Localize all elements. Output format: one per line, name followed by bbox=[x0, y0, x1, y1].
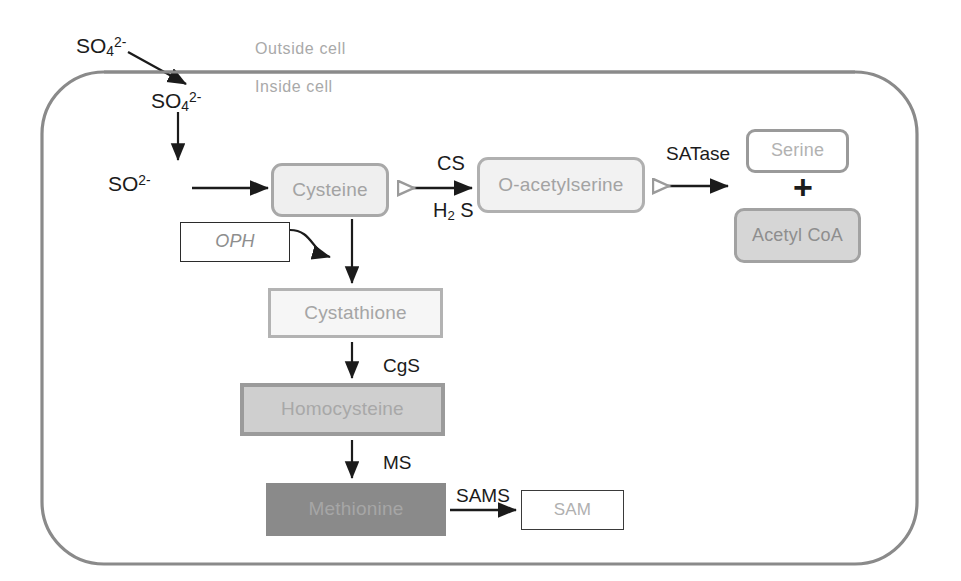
h2s-subscript: 2 bbox=[447, 208, 454, 223]
metabolite-sulfate-inside: SO42- bbox=[151, 89, 201, 114]
node-oph-enzyme[interactable]: OPH bbox=[180, 222, 290, 262]
node-sam[interactable]: SAM bbox=[521, 490, 624, 530]
node-o-acetylserine[interactable]: O-acetylserine bbox=[477, 157, 645, 213]
label-inside-cell: Inside cell bbox=[255, 78, 333, 96]
enzyme-label-sams: SAMS bbox=[456, 485, 510, 507]
sulfate-outside-subscript: 4 bbox=[106, 43, 114, 59]
node-serine[interactable]: Serine bbox=[746, 129, 849, 173]
h2s-prefix: H bbox=[433, 199, 447, 221]
sulfate-outside-formula: SO bbox=[76, 34, 106, 57]
enzyme-label-cgs: CgS bbox=[383, 355, 420, 377]
node-homocysteine[interactable]: Homocysteine bbox=[240, 383, 445, 436]
pathway-diagram-canvas: Outside cell Inside cell SO42- SO42- SO2… bbox=[0, 0, 961, 581]
metabolite-sulfate-outside: SO42- bbox=[76, 34, 126, 59]
sulfate-inside-subscript: 4 bbox=[181, 98, 189, 114]
label-outside-cell: Outside cell bbox=[255, 40, 346, 58]
sulfate-outside-charge: 2- bbox=[114, 34, 126, 50]
plus-operator-icon: + bbox=[788, 173, 818, 203]
sulfate-inside-charge: 2- bbox=[189, 89, 201, 105]
node-cystathione[interactable]: Cystathione bbox=[268, 288, 443, 338]
h2s-suffix: S bbox=[455, 199, 474, 221]
enzyme-label-ms: MS bbox=[383, 452, 412, 474]
enzyme-label-cs: CS bbox=[437, 152, 465, 175]
enzyme-label-satase: SATase bbox=[666, 143, 730, 165]
metabolite-sulfite: SO2- bbox=[108, 172, 151, 196]
sulfate-inside-formula: SO bbox=[151, 89, 181, 112]
sulfite-formula: SO bbox=[108, 172, 138, 195]
arrow-oph-curved bbox=[290, 230, 330, 257]
cofactor-label-h2s: H2 S bbox=[433, 199, 474, 223]
node-cysteine[interactable]: Cysteine bbox=[271, 163, 389, 217]
sulfite-charge: 2- bbox=[138, 172, 150, 188]
node-methionine[interactable]: Methionine bbox=[266, 483, 446, 536]
node-acetyl-coa[interactable]: Acetyl CoA bbox=[734, 208, 861, 263]
arrow-sulfate-transport bbox=[128, 52, 186, 84]
